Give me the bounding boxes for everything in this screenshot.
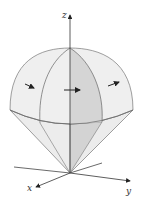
- y-axis: [70, 173, 130, 181]
- cone-shaded-wedge: [70, 122, 102, 173]
- y-axis-label: y: [125, 186, 132, 196]
- y-axis-back: [14, 167, 70, 173]
- x-axis: [36, 173, 70, 187]
- z-axis-label: z: [61, 10, 67, 20]
- cone-sphere-diagram: z x y: [0, 0, 142, 202]
- x-axis-label: x: [27, 183, 32, 193]
